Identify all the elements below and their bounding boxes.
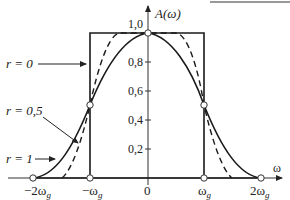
y-tick-label: 0,8	[128, 55, 143, 69]
curve-r0-rectangle	[90, 33, 204, 178]
y-tick-label: 0,4	[128, 113, 143, 127]
y-tick-label: 1,0	[128, 17, 143, 31]
x-tick-labels: −2ωg −ωg 0 ωg 2ωg	[24, 183, 270, 200]
label-r0: r = 0	[6, 56, 33, 71]
arrow-r05	[43, 117, 78, 143]
x-tick-label: 2ωg	[250, 183, 270, 200]
label-r1: r = 1	[6, 151, 33, 166]
y-axis-label: A(ω)	[154, 6, 181, 21]
markers	[30, 30, 264, 181]
curve-r1-solid	[33, 33, 261, 178]
x-tick-label: 0	[144, 183, 151, 198]
raised-cosine-diagram: 1,0 0,8 0,6 0,4 0,2 A(ω) ω −2ωg −ωg 0 ωg…	[0, 0, 290, 200]
x-tick-label: −2ωg	[24, 183, 51, 200]
x-tick-label: ωg	[198, 183, 212, 200]
y-tick-label: 0,2	[128, 142, 143, 156]
x-tick-label: −ωg	[82, 183, 103, 200]
y-tick-label: 0,6	[128, 84, 143, 98]
x-axis-label: ω	[273, 161, 281, 175]
label-r05: r = 0,5	[6, 103, 43, 118]
